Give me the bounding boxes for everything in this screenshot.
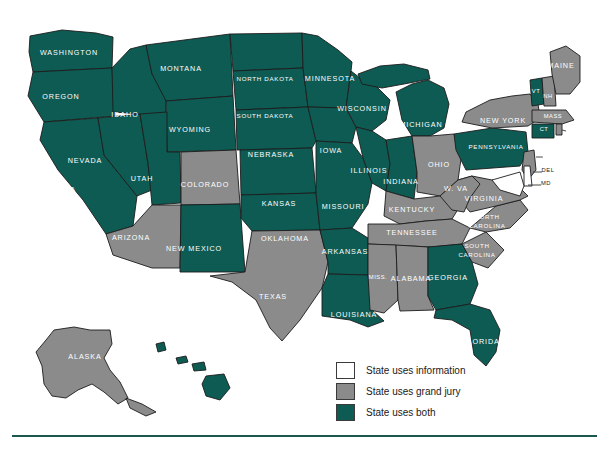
leader-RI [562, 130, 566, 131]
state-label-AZ: ARIZONA [112, 233, 150, 242]
state-label-ND: NORTH DAKOTA [237, 75, 294, 82]
legend-swatch-information [336, 362, 355, 379]
state-HI-maui[interactable] [192, 362, 206, 371]
state-label-CT: CT [540, 126, 549, 132]
legend-item-information[interactable]: State uses information [336, 360, 486, 381]
state-label-CA: CALIFORNIA [24, 185, 76, 194]
state-label-MO: MISSOURI [322, 202, 365, 211]
state-WY[interactable] [166, 96, 236, 152]
state-label-WA: WASHINGTON [40, 48, 98, 57]
state-CO[interactable] [181, 150, 240, 205]
state-label-OK: OKLAHOMA [261, 234, 309, 243]
state-label-MS: MISS. [369, 274, 387, 280]
us-map-svg: WASHINGTONOREGONIDAHOMONTANAWYOMINGNEVAD… [0, 0, 609, 452]
state-label-AL: ALABAMA [391, 274, 431, 283]
state-ME[interactable] [550, 46, 580, 94]
state-label-MI: MICHIGAN [399, 120, 442, 129]
state-label-SD: SOUTH DAKOTA [237, 112, 294, 119]
state-label-RI: RI [568, 126, 575, 132]
state-HI-oahu[interactable] [176, 356, 188, 364]
state-label-VT: VT [532, 88, 540, 94]
state-label-UT: UTAH [131, 174, 154, 183]
state-label-AK: ALASKA [68, 352, 101, 361]
offshore-layer [36, 327, 230, 416]
legend-swatch-grand-jury [336, 383, 355, 400]
legend-label-both: State uses both [366, 407, 436, 418]
state-label-NV: NEVADA [68, 156, 102, 165]
state-label-CO: COLORADO [181, 180, 229, 189]
state-label-ME: MAINE [547, 61, 574, 70]
state-label-NM: NEW MEXICO [166, 244, 222, 253]
state-AK-islands[interactable] [126, 398, 156, 416]
state-label-NH: NH [543, 93, 552, 99]
state-label-AR: ARKANSAS [322, 247, 368, 256]
state-HI-kauai[interactable] [156, 342, 166, 352]
state-label-NJ: NJ [542, 152, 550, 158]
state-label-KS: KANSAS [262, 199, 297, 208]
state-label-WV: W. VA [444, 184, 468, 193]
state-label-NE: NEBRASKA [248, 150, 294, 159]
state-RI[interactable] [556, 124, 562, 135]
state-label-VA: VIRGINIA [465, 194, 504, 203]
state-label-GA: GEORGIA [428, 273, 468, 282]
state-AK[interactable] [36, 327, 128, 404]
us-map-figure: WASHINGTONOREGONIDAHOMONTANAWYOMINGNEVAD… [0, 0, 609, 452]
state-label-NY: NEW YORK [480, 116, 526, 125]
state-label-DE: DEL [542, 167, 555, 173]
state-label-WY: WYOMING [169, 125, 211, 134]
state-label-IL: ILLINOIS [351, 166, 388, 175]
state-MN[interactable] [302, 33, 352, 108]
state-label-LA: LOUISIANA [331, 310, 377, 319]
state-label-FL: FLORIDA [462, 337, 499, 346]
legend-item-both[interactable]: State uses both [336, 402, 486, 423]
state-IN[interactable] [386, 136, 417, 199]
legend-item-grand-jury[interactable]: State uses grand jury [336, 381, 486, 402]
state-HI-bigisland[interactable] [202, 374, 230, 400]
state-label-ID: IDAHO [111, 110, 138, 119]
state-label-PA: PENNSYLVANIA [469, 143, 524, 150]
state-label-TX: TEXAS [259, 292, 287, 301]
map-legend: State uses information State uses grand … [336, 360, 486, 423]
legend-label-grand-jury: State uses grand jury [366, 386, 461, 397]
state-label-WI: WISCONSIN [337, 104, 387, 113]
state-label-OH: OHIO [428, 160, 450, 169]
state-label-MA: MASS [544, 113, 562, 119]
state-label-MN: MINNESOTA [305, 74, 355, 83]
legend-swatch-both [336, 404, 355, 421]
state-label-MD: MD [541, 180, 551, 186]
bottom-divider [12, 435, 597, 437]
state-label-OR: OREGON [42, 92, 79, 101]
state-label-IA: IOWA [320, 146, 343, 155]
state-ND[interactable] [230, 33, 303, 71]
state-label-HI: HAWAII [162, 368, 192, 377]
state-label-MT: MONTANA [160, 64, 202, 73]
state-label-KY: KENTUCKY [389, 205, 435, 214]
state-FL[interactable] [434, 304, 500, 366]
state-label-IN: INDIANA [383, 177, 418, 186]
state-label-TN: TENNESSEE [386, 228, 438, 237]
state-NM[interactable] [180, 204, 245, 272]
legend-label-information: State uses information [366, 365, 466, 376]
